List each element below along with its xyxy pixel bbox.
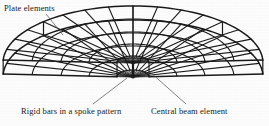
label-plate-elements: Plate elements (4, 3, 55, 13)
mesh-group (3, 6, 263, 79)
figure-container: Plate elements Rigid bars in a spoke pat… (0, 0, 269, 126)
mesh-radial-line-bottom-16 (149, 74, 263, 77)
hub-node-top (131, 61, 134, 64)
leader-line-rigid-bars (93, 78, 127, 104)
mesh-radial-line-bottom-0 (3, 74, 117, 77)
mesh-radial-line-bottom-1 (7, 63, 118, 75)
label-rigid-bars: Rigid bars in a spoke pattern (21, 106, 121, 116)
hub-node-bottom (131, 75, 134, 78)
mesh-radial-line-bottom-15 (149, 63, 260, 75)
label-central-beam: Central beam element (151, 106, 228, 116)
